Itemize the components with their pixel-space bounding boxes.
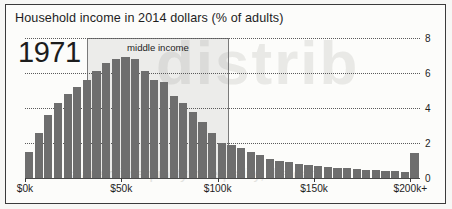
bar [35, 133, 43, 179]
bar [304, 165, 312, 178]
bar [198, 122, 206, 178]
bar [314, 166, 322, 178]
bar [102, 63, 110, 179]
bar [25, 152, 33, 178]
x-tick-mark [410, 178, 411, 182]
bar [410, 153, 418, 178]
bar [324, 167, 332, 178]
bar [362, 170, 370, 178]
bar [64, 94, 72, 178]
y-tick-label: 6 [425, 68, 431, 79]
bar [150, 80, 158, 178]
gridline-8 [25, 38, 420, 39]
bar [218, 143, 226, 178]
bar [92, 71, 100, 178]
bar [353, 169, 361, 178]
bar [141, 71, 149, 178]
plot-area: middle income02468 [25, 38, 420, 178]
x-tick-mark [314, 178, 315, 182]
x-axis: $0k$50k$100k$150k$200k+ [25, 178, 420, 204]
chart-title: Household income in 2014 dollars (% of a… [15, 11, 284, 25]
bar [160, 82, 168, 178]
bar [343, 168, 351, 178]
bar [275, 161, 283, 179]
middle-income-label: middle income [87, 42, 230, 53]
bar [247, 152, 255, 178]
bar [179, 103, 187, 178]
x-tick-label: $0k [17, 183, 33, 194]
x-tick-label: $50k [110, 183, 132, 194]
x-tick-label: $200k+ [394, 183, 428, 194]
x-tick-mark [25, 178, 26, 182]
bar [131, 59, 139, 178]
bar [112, 59, 120, 178]
gridline-6 [25, 73, 420, 74]
bar [237, 148, 245, 178]
bar [266, 159, 274, 178]
y-tick-label: 8 [425, 33, 431, 44]
bar [372, 170, 380, 178]
x-tick-mark [121, 178, 122, 182]
bar [381, 171, 389, 178]
y-tick-label: 0 [425, 173, 431, 184]
bar [189, 112, 197, 179]
bar [256, 155, 264, 178]
bar [208, 133, 216, 179]
chart-frame: distrib share of inequality or equality,… [5, 4, 446, 204]
x-tick-mark [218, 178, 219, 182]
y-tick-label: 2 [425, 138, 431, 149]
bar [391, 171, 399, 178]
bar [333, 168, 341, 178]
bar [285, 162, 293, 178]
x-tick-label: $100k [204, 183, 232, 194]
bar [295, 164, 303, 178]
y-tick-label: 4 [425, 103, 431, 114]
chart-figure: distrib share of inequality or equality,… [0, 0, 452, 209]
bar [44, 115, 52, 178]
bar [54, 103, 62, 178]
bar [227, 145, 235, 178]
bar [121, 57, 129, 178]
bar [83, 80, 91, 178]
x-tick-label: $150k [300, 183, 328, 194]
bar [170, 96, 178, 178]
bar [73, 87, 81, 178]
